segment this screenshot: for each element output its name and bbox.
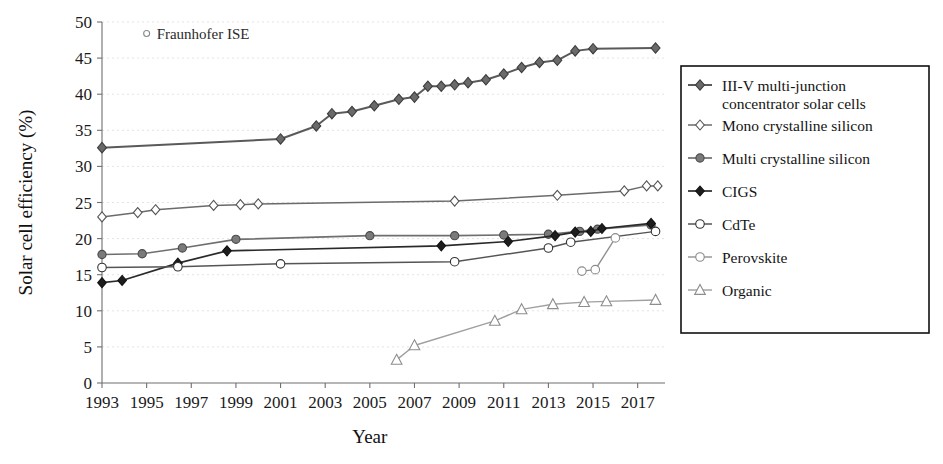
legend-item-7[interactable] bbox=[688, 284, 712, 294]
data-point bbox=[450, 80, 459, 90]
y-tick-label: 15 bbox=[75, 266, 92, 285]
x-tick-label: 2007 bbox=[397, 393, 432, 412]
x-tick-label: 2017 bbox=[621, 393, 656, 412]
gridlines bbox=[102, 22, 665, 347]
x-tick-label: 1997 bbox=[174, 393, 209, 412]
data-point bbox=[437, 81, 446, 91]
data-point bbox=[348, 106, 357, 116]
data-point bbox=[517, 62, 526, 72]
data-point bbox=[178, 244, 186, 252]
series-line bbox=[582, 238, 615, 271]
data-point bbox=[276, 260, 285, 269]
data-point bbox=[254, 199, 263, 209]
legend-item-6[interactable] bbox=[688, 253, 712, 262]
series-line bbox=[102, 186, 658, 217]
series-1 bbox=[98, 43, 660, 153]
data-point bbox=[451, 232, 459, 240]
fraunhofer-source-label: Fraunhofer ISE bbox=[157, 26, 250, 42]
data-point bbox=[544, 244, 553, 253]
data-point bbox=[553, 190, 562, 200]
legend-item-label[interactable]: Mono crystalline silicon bbox=[722, 117, 873, 134]
x-axis-title: Year bbox=[352, 426, 388, 447]
solar-cell-efficiency-chart: 0510152025303540455019931995199719992001… bbox=[0, 0, 943, 464]
data-point bbox=[151, 205, 160, 215]
data-point bbox=[653, 181, 662, 191]
data-point bbox=[174, 262, 183, 271]
legend-item-label[interactable]: Multi crystalline silicon bbox=[722, 150, 870, 167]
x-tick-label: 2003 bbox=[308, 393, 342, 412]
data-point bbox=[98, 278, 107, 288]
data-point bbox=[620, 186, 629, 196]
series-line bbox=[397, 300, 656, 360]
legend-item-1[interactable] bbox=[688, 80, 712, 90]
y-tick-label: 45 bbox=[75, 49, 92, 68]
series-7 bbox=[391, 294, 661, 364]
x-tick-label: 1999 bbox=[219, 393, 253, 412]
data-point bbox=[589, 44, 598, 54]
legend-sample-marker-icon bbox=[696, 80, 705, 90]
y-tick-label: 50 bbox=[75, 13, 92, 32]
data-point bbox=[98, 142, 107, 152]
x-tick-label: 1995 bbox=[130, 393, 164, 412]
legend-item-2[interactable] bbox=[688, 120, 712, 130]
data-point bbox=[651, 43, 660, 53]
series-4 bbox=[98, 218, 656, 287]
data-point bbox=[535, 57, 544, 67]
data-point bbox=[642, 181, 651, 191]
data-point bbox=[553, 55, 562, 65]
legend-item-4[interactable] bbox=[688, 186, 712, 196]
data-point bbox=[578, 267, 587, 276]
data-point bbox=[138, 250, 146, 258]
y-tick-label: 5 bbox=[84, 338, 93, 357]
y-tick-label: 10 bbox=[75, 302, 92, 321]
legend-sample-marker-icon bbox=[696, 120, 705, 130]
data-point bbox=[481, 75, 490, 85]
data-point bbox=[98, 250, 106, 258]
x-tick-label: 2001 bbox=[264, 393, 298, 412]
data-point bbox=[98, 263, 107, 272]
series-2 bbox=[98, 181, 662, 222]
data-point bbox=[499, 69, 508, 79]
data-point bbox=[276, 134, 285, 144]
fraunhofer-marker-icon bbox=[144, 31, 150, 37]
legend-item-3[interactable] bbox=[688, 154, 712, 162]
legend-sample-marker-icon bbox=[696, 253, 705, 262]
legend-item-label[interactable]: Perovskite bbox=[722, 249, 788, 266]
data-point bbox=[571, 46, 580, 56]
legend-item-5[interactable] bbox=[688, 220, 712, 229]
data-point bbox=[98, 212, 107, 222]
x-tick-label: 2005 bbox=[353, 393, 387, 412]
x-tick-label: 1993 bbox=[85, 393, 119, 412]
data-point bbox=[437, 241, 446, 251]
y-tick-label: 30 bbox=[75, 157, 92, 176]
data-point bbox=[236, 200, 245, 210]
legend-item-label[interactable]: III-V multi-junction bbox=[722, 77, 846, 94]
y-tick-label: 20 bbox=[75, 230, 92, 249]
data-point bbox=[450, 257, 459, 266]
legend-item-label[interactable]: CIGS bbox=[722, 183, 757, 200]
y-tick-label: 40 bbox=[75, 85, 92, 104]
data-point bbox=[450, 196, 459, 206]
legend-sample-marker-icon bbox=[696, 220, 705, 229]
data-point bbox=[394, 94, 403, 104]
x-tick-label: 2009 bbox=[442, 393, 476, 412]
y-tick-label: 35 bbox=[75, 121, 92, 140]
data-point bbox=[566, 238, 575, 247]
data-point bbox=[464, 77, 473, 87]
data-point bbox=[223, 246, 232, 256]
data-point bbox=[209, 200, 218, 210]
data-point bbox=[490, 315, 501, 325]
y-axis-title: Solar cell efficiency (%) bbox=[15, 110, 37, 296]
y-tick-label: 25 bbox=[75, 194, 92, 213]
data-point bbox=[391, 354, 402, 364]
legend-item-label[interactable]: Organic bbox=[722, 282, 772, 299]
data-point bbox=[232, 235, 240, 243]
data-point bbox=[366, 232, 374, 240]
data-point bbox=[611, 234, 620, 243]
data-point bbox=[651, 227, 660, 236]
legend-item-label-line2[interactable]: concentrator solar cells bbox=[722, 95, 866, 112]
legend-item-label[interactable]: CdTe bbox=[722, 216, 755, 233]
data-point bbox=[133, 208, 142, 218]
y-tick-label: 0 bbox=[84, 374, 93, 393]
legend-sample-marker-icon bbox=[696, 186, 705, 196]
